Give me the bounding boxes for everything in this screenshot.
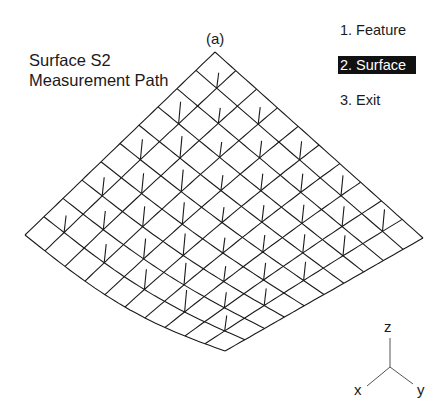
axis-label-z: z — [384, 318, 392, 335]
axis-triad-icon — [0, 0, 446, 419]
axis-label-y: y — [417, 381, 425, 398]
axis-label-x: x — [354, 381, 362, 398]
